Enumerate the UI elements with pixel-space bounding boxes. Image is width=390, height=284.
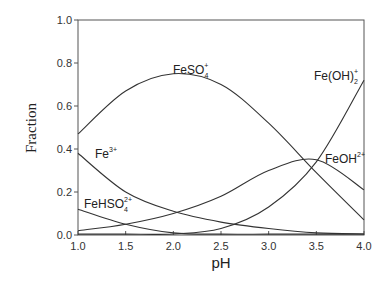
y-tick-label: 0.8 (57, 57, 72, 69)
x-tick-label: 3.0 (261, 240, 276, 252)
x-tick-label: 2.0 (166, 240, 181, 252)
series-label: FeSO+4 (173, 62, 208, 79)
x-tick-label: 4.0 (356, 240, 371, 252)
series-label: FeOH2+ (325, 151, 365, 166)
x-tick-label: 2.5 (213, 240, 228, 252)
y-tick-label: 1.0 (57, 14, 72, 26)
series-labels: FeSO+4Fe3+FeHSO2+4FeOH2+Fe(OH)+2 (84, 62, 365, 213)
y-tick-label: 0.6 (57, 100, 72, 112)
y-tick-label: 0.4 (57, 143, 72, 155)
x-tick-label: 3.5 (309, 240, 324, 252)
curve-feoh2- (78, 159, 364, 231)
y-tick-label: 0.2 (57, 186, 72, 198)
series-label: Fe3+ (95, 146, 117, 161)
y-axis-ticks: 0.00.20.40.60.81.0 (57, 14, 78, 241)
series-label: Fe(OH)+2 (314, 68, 358, 85)
y-axis-label: Fraction (23, 103, 39, 153)
curve-fe3- (78, 153, 364, 234)
x-tick-label: 1.5 (118, 240, 133, 252)
chart: 0.00.20.40.60.81.0 1.01.52.02.53.03.54.0… (0, 0, 390, 284)
curve-fe-oh-2- (78, 80, 364, 234)
x-tick-label: 1.0 (70, 240, 85, 252)
series-label: FeHSO2+4 (84, 196, 132, 213)
x-axis-label: pH (211, 254, 230, 271)
